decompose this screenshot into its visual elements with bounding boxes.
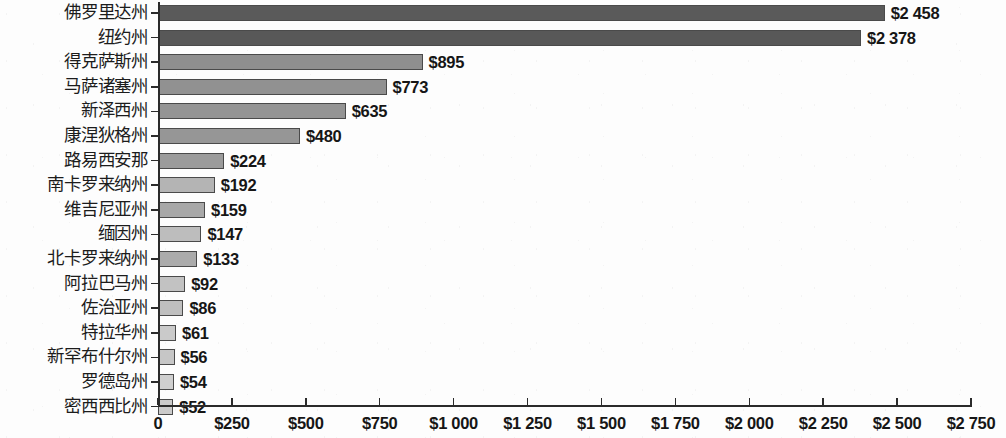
category-label: 新罕布什尔州 — [0, 348, 148, 366]
bar-value-label: $56 — [181, 349, 208, 366]
category-label: 阿拉巴马州 — [0, 275, 148, 293]
bar-value-label: $224 — [230, 153, 266, 170]
value-tick — [601, 398, 603, 405]
bar — [158, 54, 423, 70]
value-tick — [231, 398, 233, 405]
bar — [158, 251, 197, 267]
bar — [158, 226, 201, 242]
bar-value-label: $192 — [221, 177, 257, 194]
bar-value-label: $52 — [179, 399, 206, 416]
value-tick-label: $2 000 — [725, 414, 774, 433]
category-axis-line — [158, 405, 972, 407]
value-tick-label: $250 — [214, 414, 250, 433]
category-tick — [151, 111, 158, 113]
bar — [158, 103, 346, 119]
category-label: 佐治亚州 — [0, 299, 148, 317]
category-tick — [151, 406, 158, 408]
category-tick — [151, 86, 158, 88]
bar-value-label: $2 458 — [891, 5, 940, 22]
value-tick — [896, 398, 898, 405]
value-tick — [970, 398, 972, 405]
category-label: 佛罗里达州 — [0, 4, 148, 22]
bar — [158, 300, 183, 316]
value-tick-label: $2 250 — [799, 414, 848, 433]
category-label: 纽约州 — [0, 29, 148, 47]
value-tick — [822, 398, 824, 405]
bar — [158, 5, 885, 21]
category-label: 罗德岛州 — [0, 373, 148, 391]
bar — [158, 177, 215, 193]
bar — [158, 374, 174, 390]
category-label: 康涅狄格州 — [0, 127, 148, 145]
category-tick — [151, 209, 158, 211]
category-label: 北卡罗来纳州 — [0, 250, 148, 268]
paper-texture-overlay — [0, 0, 1006, 438]
category-tick — [151, 160, 158, 162]
bar-value-label: $92 — [191, 276, 218, 293]
bar — [158, 30, 861, 46]
category-tick — [151, 61, 158, 63]
value-tick-label: $2 500 — [873, 414, 922, 433]
category-label: 特拉华州 — [0, 324, 148, 342]
bar-value-label: $61 — [182, 325, 209, 342]
category-tick — [151, 37, 158, 39]
value-tick — [157, 398, 159, 405]
value-tick-label: $750 — [362, 414, 398, 433]
bar-value-label: $773 — [393, 79, 429, 96]
value-axis-line — [158, 2, 160, 406]
bar-value-label: $86 — [189, 300, 216, 317]
bar — [158, 349, 175, 365]
category-tick — [151, 184, 158, 186]
category-label: 密西西比州 — [0, 398, 148, 416]
bar-value-label: $2 378 — [867, 30, 916, 47]
category-tick — [151, 283, 158, 285]
bar — [158, 399, 173, 415]
value-tick-label: 0 — [154, 414, 163, 433]
category-label: 马萨诸塞州 — [0, 78, 148, 96]
category-tick — [151, 307, 158, 309]
value-tick — [305, 398, 307, 405]
bar-value-label: $147 — [207, 226, 243, 243]
category-label: 维吉尼亚州 — [0, 201, 148, 219]
category-tick — [151, 234, 158, 236]
bar — [158, 153, 224, 169]
bar — [158, 79, 387, 95]
category-label: 得克萨斯州 — [0, 53, 148, 71]
category-tick — [151, 357, 158, 359]
bar-value-label: $159 — [211, 202, 247, 219]
value-tick-label: $1 250 — [503, 414, 552, 433]
value-tick-label: $1 000 — [429, 414, 478, 433]
category-tick — [151, 332, 158, 334]
bar — [158, 128, 300, 144]
bar — [158, 276, 185, 292]
value-tick-label: $2 750 — [947, 414, 996, 433]
bar-value-label: $480 — [306, 128, 342, 145]
value-tick — [379, 398, 381, 405]
bar-value-label: $133 — [203, 251, 239, 268]
bar — [158, 325, 176, 341]
bar-value-label: $54 — [180, 374, 207, 391]
category-tick — [151, 258, 158, 260]
value-tick-label: $1 750 — [651, 414, 700, 433]
value-tick-label: $1 500 — [577, 414, 626, 433]
category-label: 新泽西州 — [0, 102, 148, 120]
value-tick-label: $500 — [288, 414, 324, 433]
bar — [158, 202, 205, 218]
category-tick — [151, 135, 158, 137]
category-label: 缅因州 — [0, 225, 148, 243]
value-tick — [453, 398, 455, 405]
category-label: 南卡罗来纳州 — [0, 176, 148, 194]
category-tick — [151, 381, 158, 383]
bar-chart: 佛罗里达州纽约州得克萨斯州马萨诸塞州新泽西州康涅狄格州路易西安那南卡罗来纳州维吉… — [0, 0, 1006, 438]
value-tick — [749, 398, 751, 405]
value-tick — [675, 398, 677, 405]
bar-value-label: $895 — [429, 54, 465, 71]
category-label: 路易西安那 — [0, 152, 148, 170]
category-tick — [151, 12, 158, 14]
bar-value-label: $635 — [352, 103, 388, 120]
value-tick — [527, 398, 529, 405]
